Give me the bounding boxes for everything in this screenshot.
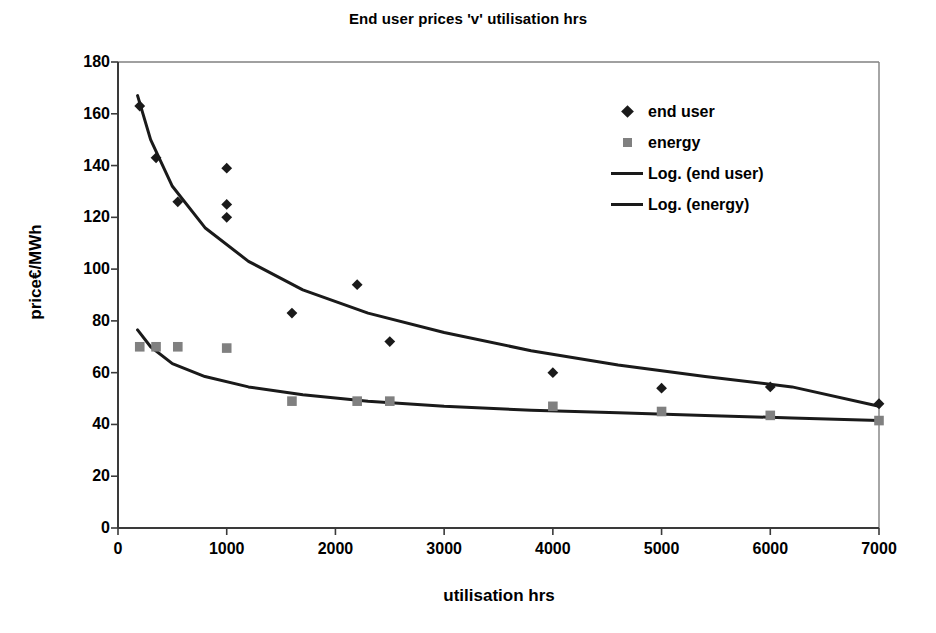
data-point-energy	[287, 396, 297, 406]
data-point-energy	[135, 342, 145, 352]
legend-label: Log. (energy)	[648, 196, 749, 214]
legend-item-energy: energy	[606, 127, 856, 158]
legend-label: energy	[648, 134, 700, 152]
plot-area	[0, 0, 936, 633]
data-point-energy	[657, 407, 667, 417]
legend-label: Log. (end user)	[648, 165, 764, 183]
diamond-marker-icon	[606, 107, 648, 116]
legend-item-log-energy: Log. (energy)	[606, 189, 856, 220]
data-point-end-user	[656, 383, 667, 394]
data-point-energy	[548, 402, 558, 412]
legend-label: end user	[648, 103, 715, 121]
data-point-end-user	[287, 308, 298, 319]
data-point-energy	[385, 396, 395, 406]
trendline-log-energy-	[138, 330, 879, 421]
legend-item-end-user: end user	[606, 96, 856, 127]
data-point-end-user	[134, 101, 145, 112]
data-point-end-user	[221, 163, 232, 174]
data-point-end-user	[352, 279, 363, 290]
line-marker-icon	[606, 172, 648, 175]
legend-item-log-end-user: Log. (end user)	[606, 158, 856, 189]
line-marker-icon	[606, 203, 648, 206]
data-point-energy	[352, 396, 362, 406]
data-point-energy	[765, 411, 775, 421]
chart-legend: end user energy Log. (end user) Log. (en…	[606, 96, 856, 220]
data-point-energy	[222, 343, 232, 353]
data-point-end-user	[874, 398, 885, 409]
data-point-end-user	[547, 367, 558, 378]
data-point-end-user	[384, 336, 395, 347]
chart-container: End user prices 'v' utilisation hrs pric…	[0, 0, 936, 633]
data-point-end-user	[221, 212, 232, 223]
data-point-energy	[874, 416, 884, 426]
data-point-energy	[173, 342, 183, 352]
square-marker-icon	[606, 138, 648, 147]
data-point-energy	[151, 342, 161, 352]
data-point-end-user	[221, 199, 232, 210]
